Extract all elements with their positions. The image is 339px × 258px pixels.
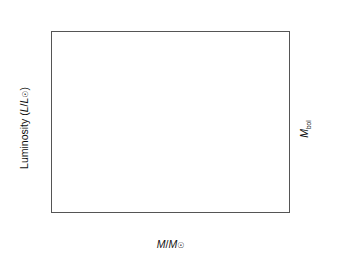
plot-frame xyxy=(51,31,290,213)
y-axis-right-title: Mbol xyxy=(298,99,312,159)
x-axis-title: M/M☉ xyxy=(51,238,290,250)
mass-luminosity-chart: Luminosity (L/L☉) Mbol M/M☉ xyxy=(0,0,339,258)
y-axis-title: Luminosity (L/L☉) xyxy=(18,63,30,193)
